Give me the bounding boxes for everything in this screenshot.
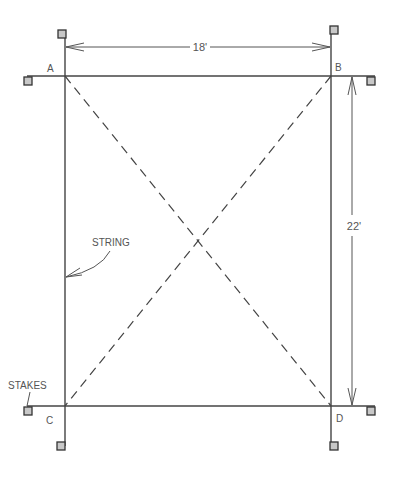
stake-icon	[367, 407, 375, 415]
stake-icon	[367, 77, 375, 85]
corner-label-c: C	[46, 415, 53, 426]
stake-icon	[330, 26, 338, 34]
stakes-callout-label: STAKES	[8, 380, 47, 391]
stake-icon	[24, 407, 32, 415]
width-label: 18'	[193, 41, 207, 53]
corner-label-d: D	[336, 413, 343, 424]
height-dimension	[348, 77, 356, 405]
arrow-head-icon	[66, 268, 82, 277]
stake-icon	[330, 442, 338, 450]
stake-icon	[57, 442, 65, 450]
stake-icon	[24, 77, 32, 85]
stakes-leader	[27, 392, 30, 406]
staking-diagram: 18' 22' A B C D STRING STAKES	[0, 0, 397, 480]
corner-label-a: A	[47, 63, 54, 74]
corner-label-b: B	[335, 62, 342, 73]
height-label: 22'	[347, 220, 361, 232]
string-callout-label: STRING	[92, 237, 130, 248]
stake-icon	[58, 30, 66, 38]
string-lines	[27, 34, 375, 446]
